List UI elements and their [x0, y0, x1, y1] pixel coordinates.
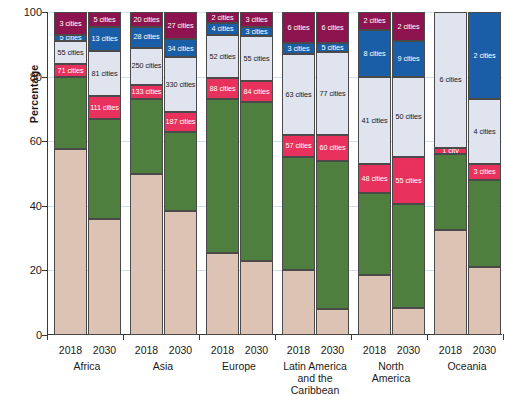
bar-segment[interactable]: 55 cities: [54, 41, 87, 64]
bar-segment[interactable]: 3 cities: [282, 43, 315, 54]
segment-value-label: 133 cities: [132, 88, 162, 95]
bar-segment[interactable]: [240, 102, 273, 260]
bar-segment[interactable]: [164, 211, 197, 335]
segment-value-label: 3 cities: [60, 20, 82, 27]
bar-segment[interactable]: 9 cities: [392, 41, 425, 77]
bar-segment[interactable]: 250 cities: [130, 48, 163, 85]
bar-segment[interactable]: [316, 309, 349, 335]
x-tick-year-label: 2030: [83, 344, 127, 356]
bar-segment[interactable]: 4 cities: [206, 23, 239, 34]
bar-segment[interactable]: 330 cities: [164, 57, 197, 112]
bar-segment[interactable]: [88, 219, 121, 335]
y-tick-label: 20: [4, 264, 42, 276]
bar-segment[interactable]: [206, 253, 239, 335]
bar[interactable]: 88 cities52 cities4 cities2 cities: [206, 12, 239, 335]
bar-segment[interactable]: 6 cities: [316, 12, 349, 43]
bar[interactable]: 84 cities55 cities3 cities3 cities: [240, 12, 273, 335]
x-axis-group-label: Africa: [49, 360, 125, 372]
bar[interactable]: 57 cities63 cities3 cities6 cities: [282, 12, 315, 335]
bar-segment[interactable]: [130, 174, 163, 336]
bar-segment[interactable]: [130, 99, 163, 173]
bar-segment[interactable]: [358, 275, 391, 335]
x-tick-mark: [275, 334, 276, 340]
bar-segment[interactable]: 5 cities: [88, 12, 121, 27]
segment-value-label: 41 cities: [362, 117, 388, 124]
bar[interactable]: 111 cities81 cities13 cities5 cities: [88, 12, 121, 335]
bar-segment[interactable]: 8 cities: [358, 30, 391, 77]
bar-segment[interactable]: [316, 161, 349, 310]
bar-segment[interactable]: [282, 270, 315, 335]
bar[interactable]: 133 cities250 cities28 cities20 cities: [130, 12, 163, 335]
bar-segment[interactable]: 77 cities: [316, 52, 349, 134]
bar-segment[interactable]: [54, 77, 87, 150]
bar-segment[interactable]: 52 cities: [206, 35, 239, 79]
bar-segment[interactable]: 63 cities: [282, 54, 315, 135]
y-tick-label: 0: [4, 329, 42, 341]
bar-segment[interactable]: 2 cities: [206, 12, 239, 23]
bar-segment[interactable]: 5 cities: [54, 35, 87, 41]
bar-segment[interactable]: 81 cities: [88, 51, 121, 96]
bar-segment[interactable]: [164, 132, 197, 211]
segment-value-label: 60 cities: [320, 144, 346, 151]
bar-segment[interactable]: 3 cities: [468, 164, 501, 180]
plot-area: 71 cities55 cities5 cities3 cities111 ci…: [48, 12, 502, 335]
bar[interactable]: 1 city6 cities: [434, 12, 467, 335]
bar-segment[interactable]: [54, 149, 87, 335]
bar-segment[interactable]: 187 cities: [164, 112, 197, 131]
bar-segment[interactable]: 27 cities: [164, 12, 197, 39]
bar-segment[interactable]: 88 cities: [206, 78, 239, 99]
bar-segment[interactable]: [434, 230, 467, 335]
bar-segment[interactable]: [434, 154, 467, 230]
bar-segment[interactable]: 111 cities: [88, 96, 121, 119]
bar-segment[interactable]: 6 cities: [282, 12, 315, 43]
bar-segment[interactable]: 50 cities: [392, 77, 425, 158]
bar[interactable]: 71 cities55 cities5 cities3 cities: [54, 12, 87, 335]
bar[interactable]: 60 cities77 cities5 cities6 cities: [316, 12, 349, 335]
x-tick-year-label: 2030: [311, 344, 355, 356]
bar-segment[interactable]: 1 city: [434, 148, 467, 154]
bar[interactable]: 55 cities50 cities9 cities2 cities: [392, 12, 425, 335]
bar[interactable]: 48 cities41 cities8 cities2 cities: [358, 12, 391, 335]
bar-segment[interactable]: [240, 261, 273, 335]
segment-value-label: 6 cities: [440, 76, 462, 83]
bar-segment[interactable]: 3 cities: [240, 27, 273, 37]
bar-segment[interactable]: 5 cities: [316, 43, 349, 53]
x-tick-mark: [351, 334, 352, 340]
bar-segment[interactable]: 60 cities: [316, 135, 349, 161]
bar-segment[interactable]: 2 cities: [358, 12, 391, 30]
segment-value-label: 81 cities: [92, 70, 118, 77]
bar-segment[interactable]: 6 cities: [434, 12, 467, 148]
bar-segment[interactable]: 2 cities: [468, 12, 501, 99]
bar-segment[interactable]: 13 cities: [88, 27, 121, 51]
bar-segment[interactable]: 3 cities: [54, 12, 87, 35]
bar-segment[interactable]: 55 cities: [240, 36, 273, 81]
bar-segment[interactable]: 55 cities: [392, 157, 425, 204]
bar[interactable]: 3 cities4 cities2 cities: [468, 12, 501, 335]
bar[interactable]: 187 cities330 cities34 cities27 cities: [164, 12, 197, 335]
bar-segment[interactable]: 133 cities: [130, 85, 163, 100]
bar-segment[interactable]: [358, 193, 391, 275]
bar-segment[interactable]: 4 cities: [468, 99, 501, 164]
bar-segment[interactable]: 2 cities: [392, 12, 425, 41]
bar-segment[interactable]: 28 cities: [130, 27, 163, 48]
bar-segment[interactable]: 57 cities: [282, 135, 315, 158]
bar-segment[interactable]: 20 cities: [130, 12, 163, 27]
bar-segment[interactable]: [392, 204, 425, 307]
bar-segment[interactable]: 84 cities: [240, 81, 273, 102]
x-tick-mark: [123, 334, 124, 340]
bar-segment[interactable]: 34 cities: [164, 39, 197, 57]
bar-segment[interactable]: [206, 99, 239, 252]
segment-value-label: 55 cities: [244, 55, 270, 62]
bar-segment[interactable]: [468, 180, 501, 267]
y-tick-label: 60: [4, 135, 42, 147]
bar-segment[interactable]: 41 cities: [358, 77, 391, 164]
bar-segment[interactable]: 71 cities: [54, 64, 87, 77]
bar-segment[interactable]: [468, 267, 501, 335]
bar-segment[interactable]: 48 cities: [358, 164, 391, 193]
bar-segment[interactable]: [282, 157, 315, 270]
x-tick-year-label: 2030: [159, 344, 203, 356]
bar-segment[interactable]: 3 cities: [240, 12, 273, 27]
bar-segment[interactable]: [88, 119, 121, 219]
bar-segment[interactable]: [392, 308, 425, 335]
